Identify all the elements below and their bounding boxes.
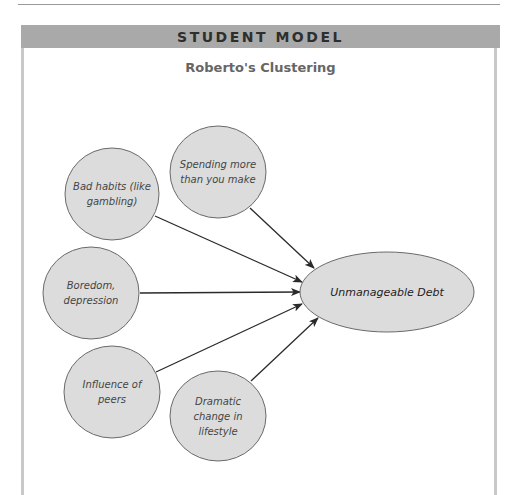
- node-label: depression: [64, 295, 119, 306]
- arrow-lifestyle: [251, 318, 318, 381]
- node-circle: [43, 247, 139, 339]
- node-peers: Influence ofpeers: [64, 346, 160, 438]
- arrow-boredom: [140, 292, 300, 293]
- node-circle: [64, 346, 160, 438]
- node-label: Unmanageable Debt: [330, 286, 444, 299]
- node-label: Boredom,: [67, 280, 116, 291]
- node-label: peers: [97, 394, 126, 405]
- node-boredom: Boredom,depression: [43, 247, 139, 339]
- arrow-spending: [250, 208, 314, 268]
- node-unmanageable-debt: Unmanageable Debt: [300, 252, 474, 332]
- node-label: Influence of: [82, 379, 143, 390]
- node-label: than you make: [180, 174, 255, 185]
- node-label: gambling): [87, 196, 138, 207]
- node-label: Bad habits (like: [73, 181, 151, 192]
- node-label: Dramatic: [195, 396, 242, 407]
- node-circle: [65, 148, 159, 240]
- node-spending: Spending morethan you make: [170, 126, 266, 218]
- node-bad-habits: Bad habits (likegambling): [65, 148, 159, 240]
- arrows-group: [140, 208, 318, 381]
- node-circle: [170, 126, 266, 218]
- node-lifestyle: Dramaticchange inlifestyle: [170, 371, 266, 461]
- arrow-bad-habits: [155, 216, 302, 282]
- node-label: Spending more: [180, 159, 256, 170]
- nodes-group: Bad habits (likegambling)Spending moreth…: [43, 126, 474, 461]
- node-label: lifestyle: [198, 426, 237, 437]
- arrow-peers: [156, 304, 302, 372]
- node-label: change in: [193, 411, 242, 422]
